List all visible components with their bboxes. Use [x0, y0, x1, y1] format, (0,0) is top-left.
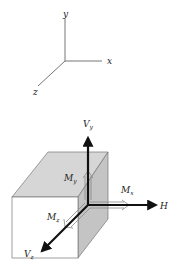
h-label: H: [159, 201, 168, 211]
mx-label: Mx: [120, 185, 134, 196]
z-axis-label: z: [32, 87, 38, 97]
coordinate-axes: y x z: [32, 9, 112, 97]
x-axis-label: x: [107, 56, 112, 66]
z-axis: [38, 61, 65, 86]
vy-label: Vy: [83, 119, 94, 131]
diagram-canvas: y x z Vy H Vz My Mx Mz: [0, 0, 176, 269]
y-axis-label: y: [62, 9, 69, 19]
